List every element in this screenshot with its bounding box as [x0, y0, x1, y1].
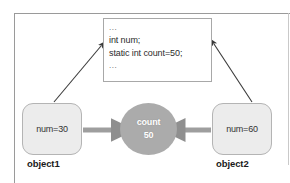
object1-box: num=30: [22, 103, 82, 155]
arrow-object2-to-code: [214, 44, 252, 102]
class-body-code-box: ... int num; static int count=50; ...: [103, 18, 212, 82]
static-variable-name: count: [137, 117, 161, 128]
frame-top-border: [14, 13, 290, 14]
code-line-static-field: static int count=50;: [109, 47, 211, 60]
frame-left-border: [14, 13, 15, 183]
arrow-object1-to-code: [54, 46, 101, 102]
frame-right-border: [288, 13, 289, 165]
object1-label: object1: [27, 158, 60, 169]
code-line-ellipsis-top: ...: [109, 22, 211, 34]
diagram-canvas: ... int num; static int count=50; ... nu…: [0, 0, 290, 183]
object2-field-value: num=60: [226, 124, 258, 134]
object2-label: object2: [216, 158, 249, 169]
static-variable-value: 50: [144, 130, 154, 141]
code-line-ellipsis-bottom: ...: [109, 60, 211, 72]
code-line-instance-field: int num;: [109, 34, 211, 47]
object1-field-value: num=30: [36, 124, 68, 134]
object2-box: num=60: [212, 103, 272, 155]
static-variable-ellipse: count 50: [120, 103, 177, 155]
